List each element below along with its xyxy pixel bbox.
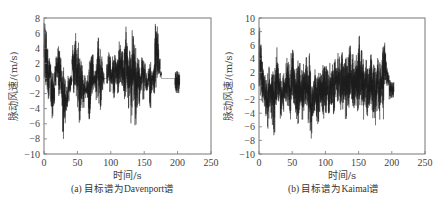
x-tick-label: 200 xyxy=(384,157,399,168)
x-tick-label: 50 xyxy=(72,157,82,168)
y-tick-label: 2 xyxy=(250,67,255,78)
y-tick-label: 8 xyxy=(35,13,40,24)
y-tick-label: −10 xyxy=(239,149,255,160)
x-axis-title: 时间/s xyxy=(328,169,357,181)
x-tick-label: 150 xyxy=(351,157,366,168)
y-tick-label: −10 xyxy=(24,149,40,160)
y-tick-label: 6 xyxy=(250,40,255,51)
y-tick-label: −6 xyxy=(29,118,40,129)
y-tick-label: 0 xyxy=(35,73,40,84)
y-tick-label: −8 xyxy=(29,133,40,144)
chart-panel-b: 050100150200250−10−8−6−4−20246810时间/s脉动风… xyxy=(222,0,445,209)
y-tick-label: −4 xyxy=(244,108,255,119)
x-tick-label: 250 xyxy=(418,157,433,168)
y-tick-label: 6 xyxy=(35,28,40,39)
y-axis-title: 脉动风速/(m/s) xyxy=(7,51,19,120)
chart-panel-a: 050100150200250−10−8−6−4−202468时间/s脉动风速/… xyxy=(0,0,222,209)
x-tick-label: 0 xyxy=(257,157,262,168)
caption-b: (b) 目标谱为Kaimal谱 xyxy=(288,181,379,195)
y-tick-label: 0 xyxy=(250,81,255,92)
x-axis-title: 时间/s xyxy=(113,169,142,181)
y-tick-label: 4 xyxy=(35,43,40,54)
y-tick-label: −6 xyxy=(244,121,255,132)
kaimal-chart: 050100150200250−10−8−6−4−20246810时间/s脉动风… xyxy=(222,0,445,209)
davenport-chart: 050100150200250−10−8−6−4−202468时间/s脉动风速/… xyxy=(0,0,222,209)
wind-speed-series xyxy=(259,28,394,139)
y-tick-label: 2 xyxy=(35,58,40,69)
x-tick-label: 50 xyxy=(287,157,297,168)
y-tick-label: 10 xyxy=(245,13,255,24)
y-axis-title: 脉动风速/(m/s) xyxy=(222,51,234,120)
wind-speed-series xyxy=(44,23,180,139)
x-tick-label: 150 xyxy=(137,157,152,168)
x-tick-label: 100 xyxy=(103,157,118,168)
y-tick-label: −2 xyxy=(244,94,255,105)
y-tick-label: −2 xyxy=(29,88,40,99)
y-tick-label: 8 xyxy=(250,26,255,37)
x-tick-label: 250 xyxy=(204,157,219,168)
y-tick-label: 4 xyxy=(250,53,255,64)
y-tick-label: −4 xyxy=(29,103,40,114)
x-tick-label: 200 xyxy=(170,157,185,168)
caption-a: (a) 目标谱为Davenport谱 xyxy=(71,181,174,195)
y-tick-label: −8 xyxy=(244,135,255,146)
x-tick-label: 0 xyxy=(42,157,47,168)
x-tick-label: 100 xyxy=(318,157,333,168)
